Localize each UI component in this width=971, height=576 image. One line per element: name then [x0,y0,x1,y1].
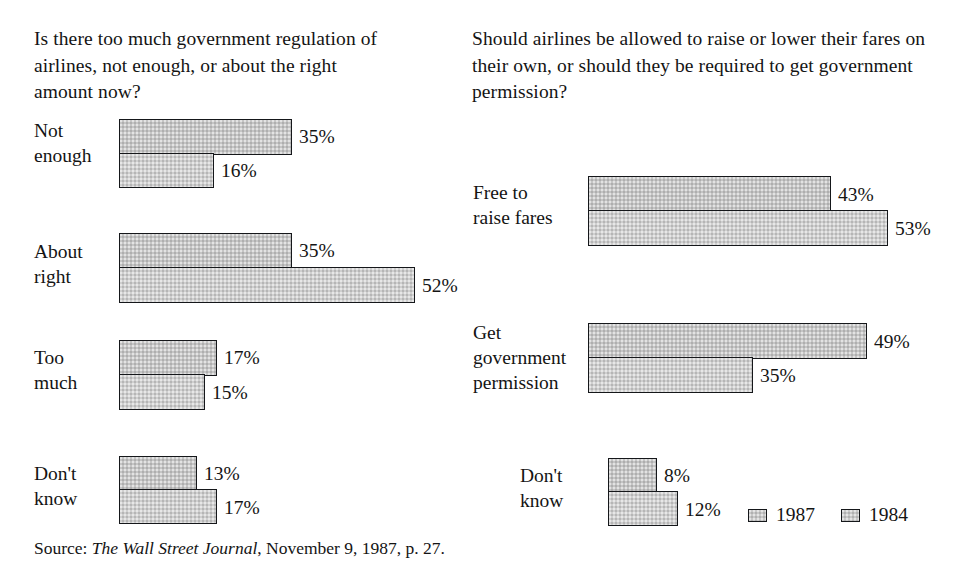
category-label-line2: know [520,490,563,511]
bar-value-1987-about-right: 35% [299,240,335,262]
legend-swatch-icon-1987 [748,509,767,522]
bar-1984-dont-know-right [608,491,678,526]
category-label-line2: enough [34,145,91,166]
category-label-line2: right [34,266,71,287]
source-note: Source: The Wall Street Journal, Novembe… [34,538,445,559]
category-label-dont-know-right: Don't know [520,463,563,513]
bar-1984-too-much [119,374,205,410]
bar-value-1987-not-enough: 35% [299,126,335,148]
left-chart-question: Is there too much government regulation … [34,26,394,106]
category-label-about-right: About right [34,239,83,289]
bar-1984-dont-know-left [119,489,217,524]
bar-value-1987-dont-know-left: 13% [204,463,240,485]
bar-value-1984-too-much: 15% [212,382,248,404]
right-chart-question: Should airlines be allowed to raise or l… [472,26,932,106]
bar-value-1984-free-to-raise-fares: 53% [895,218,931,240]
bar-value-1984-about-right: 52% [422,275,458,297]
bar-1987-free-to-raise-fares [588,176,831,212]
bar-value-1984-get-government-permission: 35% [760,365,796,387]
legend-item-1984: 1984 [841,505,908,525]
bar-value-1987-too-much: 17% [224,347,260,369]
bar-1984-not-enough [119,153,214,188]
bar-1987-get-government-permission [588,323,867,359]
category-label-dont-know-left: Don't know [34,461,77,511]
category-label-line1: About [34,241,83,262]
legend-item-1987: 1987 [748,505,815,525]
bar-value-1987-dont-know-right: 8% [664,465,690,487]
category-label-free-to-raise-fares: Free to raise fares [473,180,553,230]
bar-1984-about-right [119,267,415,303]
bar-1987-about-right [119,233,292,269]
category-label-not-enough: Not enough [34,118,91,168]
bar-1987-dont-know-right [608,458,657,493]
bar-1984-get-government-permission [588,357,753,393]
category-label-get-government-permission: Get government permission [473,320,566,395]
bar-1987-too-much [119,340,217,376]
category-label-line1: Free to [473,182,528,203]
legend-label-1987: 1987 [776,505,815,525]
legend-label-1984: 1984 [869,505,908,525]
bar-value-1987-get-government-permission: 49% [874,331,910,353]
category-label-line2: raise fares [473,207,553,228]
source-publication: The Wall Street Journal [92,538,257,558]
category-label-too-much: Too much [34,345,77,395]
left-chart-panel: Is there too much government regulation … [0,0,470,576]
chart-legend: 1987 1984 [748,505,908,525]
category-label-line1: Don't [34,463,77,484]
bar-value-1984-dont-know-left: 17% [224,497,260,519]
bar-1984-free-to-raise-fares [588,210,888,246]
source-prefix: Source: [34,538,92,558]
category-label-line2: government [473,347,566,368]
category-label-line1: Too [34,347,64,368]
right-chart-panel: Should airlines be allowed to raise or l… [462,0,971,576]
category-label-line2: much [34,372,77,393]
category-label-line2: know [34,488,77,509]
bar-1987-dont-know-left [119,456,197,491]
source-suffix: , November 9, 1987, p. 27. [257,538,445,558]
category-label-line1: Don't [520,465,563,486]
bar-value-1984-not-enough: 16% [221,160,257,182]
legend-swatch-icon-1984 [841,509,860,522]
bar-1987-not-enough [119,119,292,155]
category-label-line3: permission [473,372,559,393]
bar-value-1984-dont-know-right: 12% [685,499,721,521]
bar-value-1987-free-to-raise-fares: 43% [838,184,874,206]
category-label-line1: Not [34,120,63,141]
category-label-line1: Get [473,322,501,343]
